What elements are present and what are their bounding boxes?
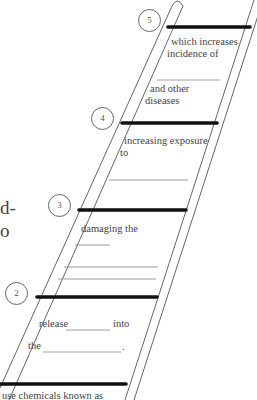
side-text-fragment-1: d- [0, 196, 16, 220]
step-4-number: 4 [91, 107, 114, 130]
step-4-text-1: increasing exposure [124, 135, 208, 147]
rungs [0, 27, 250, 384]
step-2-the: the [28, 340, 41, 352]
step-3-text-1: damaging the [81, 223, 138, 235]
step-2-into: into [113, 318, 129, 330]
side-text-fragment-2: o [0, 219, 10, 243]
step-3-number: 3 [48, 194, 71, 217]
step-5-text-1: which increases [171, 36, 238, 48]
step-2-period: . [122, 341, 125, 353]
step-1-text: use chemicals known as [2, 390, 103, 400]
right-rail [125, 0, 257, 400]
step-5-text-2: incidence of [167, 48, 219, 60]
step-5-number: 5 [138, 9, 161, 32]
step-5-after-2: diseases [145, 95, 179, 107]
step-4-text-2: to [120, 147, 128, 159]
step-2-release: release [39, 318, 68, 330]
step-5-after-1: and other [150, 83, 189, 95]
step-2-number: 2 [5, 282, 28, 305]
